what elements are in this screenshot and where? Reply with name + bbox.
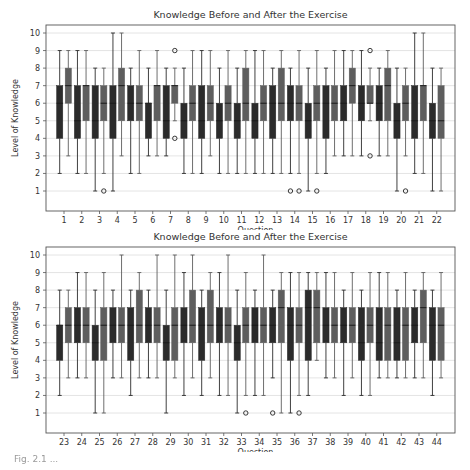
box-before: [74, 273, 80, 378]
box-before: [163, 290, 169, 413]
box-after: [385, 273, 391, 378]
box-after: [296, 273, 302, 416]
question-group-28: [145, 255, 160, 378]
box-before: [128, 290, 134, 395]
box-before: [252, 290, 258, 395]
question-group-3: [92, 68, 107, 193]
question-group-1: [57, 51, 72, 174]
x-tick-label: 43: [414, 438, 424, 447]
box-before: [110, 290, 116, 378]
box-before: [145, 68, 151, 156]
question-group-22: [429, 68, 444, 191]
y-tick-label: 4: [35, 134, 40, 143]
box-before: [287, 68, 293, 193]
x-axis-label: Question: [238, 448, 274, 452]
box-before: [305, 68, 311, 191]
box-after: [438, 273, 444, 378]
box-before: [341, 51, 347, 156]
x-tick-label: 29: [165, 438, 175, 447]
box-after: [172, 48, 178, 140]
question-group-2: [74, 51, 89, 174]
question-group-31: [199, 273, 214, 396]
y-axis-label: Level of Knowledge: [11, 79, 20, 157]
y-tick-label: 4: [35, 356, 40, 365]
question-group-9: [199, 51, 214, 174]
box-before: [358, 51, 364, 156]
y-tick-label: 3: [35, 152, 40, 161]
y-tick-label: 5: [35, 339, 40, 348]
box-after: [189, 51, 195, 174]
box-before: [57, 51, 63, 174]
x-tick-label: 42: [396, 438, 406, 447]
box-after: [225, 51, 231, 174]
box-after: [367, 48, 373, 158]
x-tick-label: 41: [378, 438, 388, 447]
figure-caption: Fig. 2.1 ...: [14, 454, 58, 464]
box-after: [438, 68, 444, 191]
box-after: [349, 51, 355, 156]
box-after: [349, 273, 355, 378]
box-after: [83, 273, 89, 378]
box-after: [207, 51, 213, 156]
x-tick-label: 27: [130, 438, 140, 447]
box-before: [92, 290, 98, 413]
box-before: [412, 33, 418, 173]
box-after: [243, 273, 249, 416]
question-group-13: [270, 51, 285, 174]
y-tick-label: 2: [35, 169, 40, 178]
box-before: [429, 68, 435, 191]
boxplot-chart-questions-23-44: Knowledge Before and After the Exercise1…: [0, 222, 470, 452]
question-group-10: [216, 51, 231, 174]
box-before: [181, 273, 187, 396]
y-tick-label: 5: [35, 117, 40, 126]
box-after: [314, 273, 320, 361]
box-before: [57, 290, 63, 395]
box-after: [243, 51, 249, 174]
box-after: [118, 255, 124, 378]
question-group-40: [358, 273, 373, 396]
box-after: [331, 273, 337, 378]
x-tick-label: 36: [290, 438, 300, 447]
x-tick-label: 25: [94, 438, 104, 447]
box-after: [136, 51, 142, 174]
box-after: [154, 255, 160, 378]
question-group-12: [252, 51, 267, 174]
box-after: [402, 68, 408, 193]
x-tick-label: 34: [254, 438, 264, 447]
y-tick-label: 3: [35, 374, 40, 383]
box-before: [358, 290, 364, 395]
x-tick-label: 26: [112, 438, 122, 447]
y-tick-label: 10: [30, 251, 40, 260]
box-before: [110, 33, 116, 191]
y-tick-label: 1: [35, 187, 40, 196]
box-before: [376, 273, 382, 378]
box-after: [260, 255, 266, 395]
box-after: [225, 255, 231, 395]
box-after: [367, 273, 373, 396]
x-tick-label: 33: [236, 438, 246, 447]
question-group-44: [429, 273, 444, 396]
box-after: [65, 290, 71, 378]
box-before: [305, 273, 311, 396]
question-group-5: [128, 51, 143, 174]
x-tick-label: 38: [325, 438, 335, 447]
question-group-26: [110, 255, 125, 378]
box-before: [394, 290, 400, 378]
y-tick-label: 6: [35, 99, 40, 108]
y-tick-label: 8: [35, 64, 40, 73]
y-tick-label: 1: [35, 409, 40, 418]
box-before: [412, 290, 418, 378]
chart-title: Knowledge Before and After the Exercise: [153, 9, 347, 20]
chart-title: Knowledge Before and After the Exercise: [153, 231, 347, 242]
box-after: [136, 273, 142, 378]
x-tick-label: 24: [77, 438, 87, 447]
y-tick-label: 8: [35, 286, 40, 295]
x-tick-label: 31: [201, 438, 211, 447]
question-group-7: [163, 48, 178, 156]
box-before: [216, 68, 222, 173]
box-before: [92, 68, 98, 191]
question-group-20: [394, 68, 409, 193]
box-before: [216, 273, 222, 396]
box-before: [270, 290, 276, 415]
y-tick-label: 6: [35, 321, 40, 330]
